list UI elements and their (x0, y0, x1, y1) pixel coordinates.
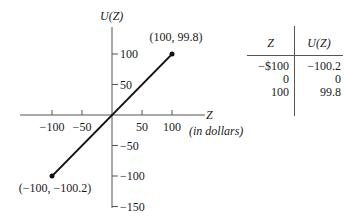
x-axis-label: Z (206, 108, 213, 122)
y-tick-label: −50 (120, 139, 139, 153)
x-tick-label: 100 (163, 120, 181, 134)
x-axis-unit-note: (in dollars) (189, 124, 243, 138)
y-tick-label: 100 (120, 47, 138, 61)
data-point (50, 174, 55, 179)
table-header-z: Z (247, 36, 294, 51)
table-cell: 100 (247, 85, 289, 100)
table-cell: 99.8 (299, 85, 341, 100)
x-tick-label: −50 (73, 120, 92, 134)
table-divider-horizontal (247, 55, 343, 56)
y-tick-label: 50 (120, 78, 132, 92)
point-annotation: (−100, −100.2) (19, 181, 92, 195)
y-tick-label: −150 (120, 200, 145, 214)
x-tick-label: −100 (40, 120, 65, 134)
y-axis-label: U(Z) (100, 9, 123, 23)
utility-chart: −100−5050100 10050−50−100−150 (100, 99.8… (0, 0, 355, 219)
y-tick-label: −100 (120, 169, 145, 183)
table-header-uz: U(Z) (295, 36, 343, 51)
data-point (170, 52, 175, 57)
x-tick-label: 50 (136, 120, 148, 134)
point-annotation: (100, 99.8) (150, 30, 203, 44)
